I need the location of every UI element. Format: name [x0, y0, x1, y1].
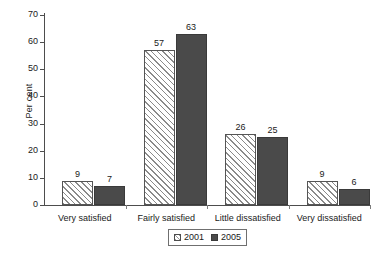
bar-value-label: 7: [107, 174, 112, 185]
plot-area: 010203040506070 975763262596: [44, 15, 370, 205]
bar-value-label: 9: [319, 169, 324, 180]
bar-value-label: 6: [351, 177, 356, 188]
y-axis-tick-label: 60: [28, 36, 38, 47]
y-axis-tick-label: 10: [28, 172, 38, 183]
bar-2005-3[interactable]: 6: [339, 189, 370, 205]
bar-2001-3[interactable]: 9: [307, 181, 338, 205]
legend-swatch-2005-icon: [211, 234, 218, 241]
chart-legend: 2001 2005: [168, 229, 247, 246]
x-axis-category-label: Fairly satisfied: [126, 212, 208, 224]
y-axis-tick-mark: [40, 205, 44, 206]
x-axis-tick-mark: [207, 205, 208, 209]
bar-2005-2[interactable]: 25: [257, 137, 288, 205]
x-axis-tick-mark: [370, 205, 371, 209]
x-axis-category-label: Little dissatisfied: [207, 212, 289, 224]
bar-value-label: 57: [154, 38, 164, 49]
chart-container: Per cent 010203040506070 975763262596 Ve…: [0, 0, 390, 259]
legend-item-2005[interactable]: 2005: [211, 231, 241, 243]
y-axis-tick-label: 40: [28, 90, 38, 101]
legend-label-2005: 2005: [221, 231, 241, 243]
bar-value-label: 9: [75, 169, 80, 180]
x-axis-category-label: Very satisfied: [44, 212, 126, 224]
x-axis-category-label: Very dissatisfied: [289, 212, 371, 224]
bar-2001-1[interactable]: 57: [144, 50, 175, 205]
bar-group: 5763: [126, 15, 208, 205]
x-axis-tick-mark: [126, 205, 127, 209]
bar-2001-0[interactable]: 9: [62, 181, 93, 205]
y-axis-tick-label: 70: [28, 9, 38, 20]
y-axis-tick-label: 30: [28, 118, 38, 129]
legend-item-2001[interactable]: 2001: [174, 231, 204, 243]
bar-2005-1[interactable]: 63: [176, 34, 207, 205]
bar-group: 97: [44, 15, 126, 205]
bar-group: 2625: [207, 15, 289, 205]
legend-swatch-2001-icon: [174, 234, 181, 241]
bar-2001-2[interactable]: 26: [225, 134, 256, 205]
bar-2005-0[interactable]: 7: [94, 186, 125, 205]
bar-group: 96: [289, 15, 371, 205]
bar-value-label: 26: [235, 122, 245, 133]
bar-value-label: 63: [186, 22, 196, 33]
y-axis-tick-label: 20: [28, 145, 38, 156]
legend-label-2001: 2001: [184, 231, 204, 243]
y-axis-tick-label: 50: [28, 63, 38, 74]
x-axis-tick-mark: [289, 205, 290, 209]
bar-value-label: 25: [267, 125, 277, 136]
y-axis-tick-label: 0: [33, 199, 38, 210]
